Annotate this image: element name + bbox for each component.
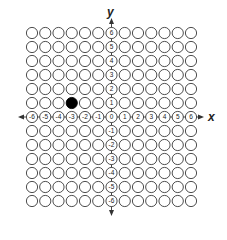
bubble[interactable] bbox=[119, 167, 130, 178]
bubble[interactable] bbox=[79, 27, 90, 38]
bubble[interactable] bbox=[159, 41, 170, 52]
bubble[interactable] bbox=[119, 125, 130, 136]
bubble[interactable] bbox=[172, 153, 183, 164]
bubble[interactable] bbox=[40, 69, 51, 80]
bubble[interactable] bbox=[26, 181, 37, 192]
bubble[interactable] bbox=[185, 181, 196, 192]
bubble[interactable] bbox=[185, 153, 196, 164]
bubble[interactable] bbox=[172, 97, 183, 108]
bubble[interactable] bbox=[40, 125, 51, 136]
bubble[interactable] bbox=[79, 139, 90, 150]
bubble[interactable] bbox=[40, 153, 51, 164]
bubble[interactable] bbox=[132, 41, 143, 52]
bubble[interactable] bbox=[66, 27, 77, 38]
bubble[interactable] bbox=[172, 41, 183, 52]
bubble[interactable] bbox=[159, 167, 170, 178]
bubble[interactable] bbox=[146, 153, 157, 164]
bubble[interactable] bbox=[132, 27, 143, 38]
bubble[interactable] bbox=[93, 55, 104, 66]
bubble[interactable] bbox=[185, 55, 196, 66]
bubble[interactable] bbox=[159, 139, 170, 150]
bubble[interactable] bbox=[53, 83, 64, 94]
bubble[interactable] bbox=[40, 27, 51, 38]
bubble[interactable] bbox=[40, 195, 51, 206]
bubble[interactable] bbox=[119, 69, 130, 80]
bubble[interactable] bbox=[159, 55, 170, 66]
bubble[interactable] bbox=[132, 153, 143, 164]
bubble[interactable] bbox=[79, 167, 90, 178]
bubble[interactable] bbox=[119, 181, 130, 192]
bubble[interactable] bbox=[119, 55, 130, 66]
bubble[interactable] bbox=[66, 153, 77, 164]
bubble[interactable] bbox=[26, 167, 37, 178]
bubble[interactable] bbox=[119, 195, 130, 206]
bubble[interactable] bbox=[26, 41, 37, 52]
bubble[interactable] bbox=[26, 27, 37, 38]
bubble[interactable] bbox=[185, 41, 196, 52]
bubble[interactable] bbox=[93, 69, 104, 80]
bubble[interactable] bbox=[146, 83, 157, 94]
bubble[interactable] bbox=[53, 55, 64, 66]
bubble[interactable] bbox=[172, 27, 183, 38]
bubble[interactable] bbox=[132, 97, 143, 108]
bubble[interactable] bbox=[93, 27, 104, 38]
bubble[interactable] bbox=[119, 139, 130, 150]
bubble[interactable] bbox=[93, 195, 104, 206]
bubble[interactable] bbox=[66, 41, 77, 52]
bubble[interactable] bbox=[172, 83, 183, 94]
bubble[interactable] bbox=[185, 69, 196, 80]
bubble[interactable] bbox=[185, 125, 196, 136]
bubble[interactable] bbox=[146, 27, 157, 38]
bubble[interactable] bbox=[146, 97, 157, 108]
bubble[interactable] bbox=[185, 97, 196, 108]
bubble[interactable] bbox=[132, 55, 143, 66]
bubble[interactable] bbox=[132, 195, 143, 206]
bubble[interactable] bbox=[146, 41, 157, 52]
bubble[interactable] bbox=[146, 69, 157, 80]
bubble[interactable] bbox=[172, 167, 183, 178]
bubble[interactable] bbox=[132, 125, 143, 136]
bubble[interactable] bbox=[26, 55, 37, 66]
bubble[interactable] bbox=[26, 83, 37, 94]
bubble[interactable] bbox=[159, 195, 170, 206]
bubble[interactable] bbox=[146, 181, 157, 192]
bubble[interactable] bbox=[146, 125, 157, 136]
bubble[interactable] bbox=[172, 69, 183, 80]
bubble[interactable] bbox=[93, 181, 104, 192]
bubble[interactable] bbox=[26, 69, 37, 80]
bubble[interactable] bbox=[66, 69, 77, 80]
bubble[interactable] bbox=[40, 55, 51, 66]
bubble[interactable] bbox=[93, 125, 104, 136]
bubble[interactable] bbox=[79, 83, 90, 94]
bubble[interactable] bbox=[40, 139, 51, 150]
bubble[interactable] bbox=[119, 83, 130, 94]
bubble[interactable] bbox=[119, 41, 130, 52]
bubble[interactable] bbox=[93, 139, 104, 150]
bubble[interactable] bbox=[66, 195, 77, 206]
bubble[interactable] bbox=[53, 69, 64, 80]
bubble[interactable] bbox=[93, 167, 104, 178]
bubble[interactable] bbox=[159, 27, 170, 38]
bubble[interactable] bbox=[66, 181, 77, 192]
bubble[interactable] bbox=[132, 139, 143, 150]
bubble[interactable] bbox=[53, 41, 64, 52]
bubble[interactable] bbox=[53, 181, 64, 192]
bubble[interactable] bbox=[93, 41, 104, 52]
bubble[interactable] bbox=[40, 181, 51, 192]
bubble[interactable] bbox=[146, 139, 157, 150]
bubble[interactable] bbox=[159, 97, 170, 108]
bubble[interactable] bbox=[26, 97, 37, 108]
bubble[interactable] bbox=[185, 167, 196, 178]
bubble[interactable] bbox=[79, 41, 90, 52]
bubble[interactable] bbox=[40, 167, 51, 178]
bubble[interactable] bbox=[159, 83, 170, 94]
bubble[interactable] bbox=[79, 153, 90, 164]
bubble[interactable] bbox=[185, 195, 196, 206]
bubble[interactable] bbox=[66, 167, 77, 178]
bubble[interactable] bbox=[146, 195, 157, 206]
bubble[interactable] bbox=[26, 139, 37, 150]
bubble[interactable] bbox=[93, 97, 104, 108]
bubble[interactable] bbox=[79, 195, 90, 206]
bubble[interactable] bbox=[185, 27, 196, 38]
bubble[interactable] bbox=[119, 153, 130, 164]
